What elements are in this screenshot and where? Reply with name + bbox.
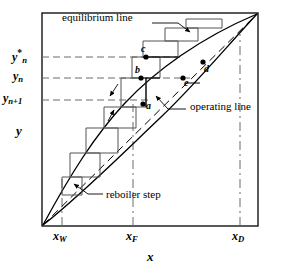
x-tick-sub-0: W [59, 234, 67, 244]
annotation-equilibrium-line: equilibrium line [62, 12, 133, 23]
annotation-reboiler-step: reboiler step [106, 189, 161, 200]
point-c-marker [143, 54, 148, 59]
x-tick-label-xw: xW [53, 230, 67, 244]
step-2 [86, 128, 118, 153]
point-label-d: d [204, 64, 209, 74]
point-b-marker [138, 75, 143, 80]
y-tick-sub-0: n [22, 55, 27, 65]
step-upper-2 [186, 19, 222, 28]
x-tick-label-xd: xD [232, 230, 244, 244]
y-tick-sub-2: n+1 [8, 96, 22, 106]
step-n-minus-1 [143, 41, 178, 57]
y-tick-label-yn: yn [13, 70, 23, 84]
leader-lines [74, 23, 190, 194]
annotation-operating-line: operating line [190, 101, 251, 112]
x-tick-label-xf: xF [126, 230, 138, 244]
point-label-a: a [146, 101, 151, 111]
step-3 [104, 107, 136, 128]
step-upper-1 [165, 28, 198, 41]
mccabe-thiele-figure: equilibrium line operating line reboiler… [0, 0, 286, 267]
y-reference-lines [42, 57, 190, 100]
y-tick-sub-1: n [18, 74, 23, 84]
point-label-b: b [135, 65, 140, 75]
figure-canvas [0, 0, 286, 267]
step-pointer-upper [110, 84, 118, 96]
step-1 [70, 153, 100, 177]
point-a-marker [140, 101, 145, 106]
y-tick-label-yn-plus-1: yn+1 [3, 92, 22, 106]
x-tick-sub-2: D [238, 234, 244, 244]
point-label-e: e [184, 78, 188, 88]
x-axis-label: x [147, 250, 154, 263]
point-label-c: c [141, 44, 145, 54]
y-tick-label-yn-star: y*n [12, 48, 27, 65]
x-tick-sub-1: F [132, 234, 138, 244]
y-axis-label: y [16, 124, 22, 137]
